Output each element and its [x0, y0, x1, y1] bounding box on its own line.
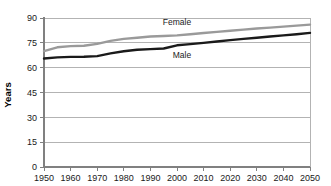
y-tick-label-0: 0 — [32, 162, 37, 172]
y-tick-label-30: 30 — [27, 113, 37, 123]
y-tick-label-90: 90 — [27, 13, 37, 23]
x-tick-label-2020: 2020 — [220, 173, 240, 183]
chart-plot-area: Years 90 75 60 — [0, 0, 331, 186]
x-tick-label-2030: 2030 — [247, 173, 267, 183]
x-tick-label-2040: 2040 — [273, 173, 293, 183]
y-tick-labels: 90 75 60 45 30 15 0 — [27, 13, 37, 172]
x-tick-label-1950: 1950 — [34, 173, 54, 183]
x-tick-label-2000: 2000 — [167, 173, 187, 183]
y-axis-title: Years — [2, 82, 13, 107]
y-tick-label-75: 75 — [27, 38, 37, 48]
x-tick-label-1980: 1980 — [114, 173, 134, 183]
series-annotation-male: Male — [173, 50, 192, 60]
x-tick-label-2050: 2050 — [300, 173, 320, 183]
x-tick-label-1990: 1990 — [140, 173, 160, 183]
x-tick-label-2010: 2010 — [194, 173, 214, 183]
series-annotation-female: Female — [163, 17, 192, 27]
x-tick-labels: 1950 1960 1970 1980 1990 2000 2010 2020 … — [34, 173, 320, 183]
y-tick-label-60: 60 — [27, 63, 37, 73]
x-tick-label-1960: 1960 — [61, 173, 81, 183]
line-chart-life-expectancy: Years 90 75 60 — [0, 0, 331, 186]
series-line-female — [44, 25, 310, 51]
x-tick-label-1970: 1970 — [87, 173, 107, 183]
y-tick-label-15: 15 — [27, 137, 37, 147]
x-tick-marks — [44, 167, 310, 171]
y-tick-label-45: 45 — [27, 88, 37, 98]
